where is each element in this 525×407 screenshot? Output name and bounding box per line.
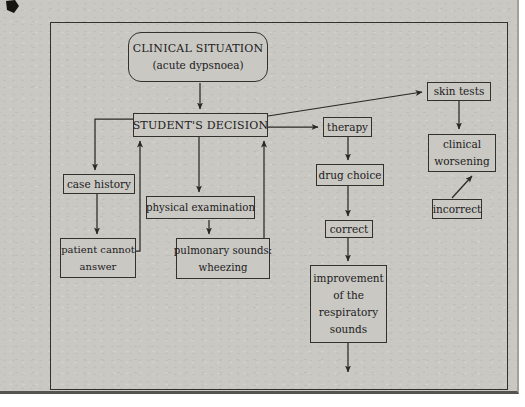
node-label: drug choice <box>319 167 382 184</box>
flowchart-figure: CLINICAL SITUATION (acute dypsnoea) STUD… <box>0 0 525 407</box>
edge-patient-cannot-answer-to-students-decision <box>135 141 140 251</box>
node-label: patient cannot <box>61 241 135 258</box>
scan-ink-artifact <box>6 0 19 13</box>
node-label: correct <box>330 221 369 238</box>
node-label: wheezing <box>198 259 247 276</box>
edge-incorrect-to-clinical-worsening <box>452 176 472 198</box>
node-label: worsening <box>434 153 490 170</box>
node-label: answer <box>80 258 117 275</box>
node-case-history: case history <box>63 174 135 194</box>
node-therapy: therapy <box>323 117 372 137</box>
node-label: therapy <box>327 119 368 136</box>
node-clinical-worsening: clinical worsening <box>428 134 496 172</box>
node-label: sounds <box>330 321 367 338</box>
node-incorrect: incorrect <box>432 199 482 219</box>
node-label: (acute dypsnoea) <box>152 57 243 74</box>
node-label: respiratory <box>319 304 378 321</box>
node-label: case history <box>67 176 131 193</box>
edge-students-decision-to-skin-tests <box>268 92 422 116</box>
node-label: pulmonary sounds: <box>174 242 272 259</box>
node-students-decision: STUDENT'S DECISION <box>133 113 268 137</box>
node-label: STUDENT'S DECISION <box>133 117 269 134</box>
edge-students-decision-to-case-history <box>95 119 133 170</box>
node-label: physical examination <box>146 199 255 216</box>
node-pulmonary-sounds: pulmonary sounds: wheezing <box>176 238 270 279</box>
node-physical-examination: physical examination <box>146 196 255 219</box>
node-label: skin tests <box>434 83 485 100</box>
node-clinical-situation: CLINICAL SITUATION (acute dypsnoea) <box>128 32 268 82</box>
node-improvement: improvement of the respiratory sounds <box>310 265 387 343</box>
node-patient-cannot-answer: patient cannot answer <box>60 238 136 278</box>
node-label: clinical <box>443 136 481 153</box>
node-label: improvement <box>313 270 384 287</box>
node-skin-tests: skin tests <box>427 82 491 101</box>
node-correct: correct <box>325 220 373 238</box>
node-label: CLINICAL SITUATION <box>133 40 264 57</box>
node-label: of the <box>333 287 364 304</box>
node-drug-choice: drug choice <box>316 164 384 186</box>
node-label: incorrect <box>433 201 482 218</box>
